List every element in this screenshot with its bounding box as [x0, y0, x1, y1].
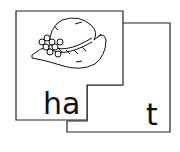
right-card-letters: t: [146, 97, 158, 132]
word-puzzle: t ha: [0, 0, 180, 152]
left-card-letters: ha: [43, 86, 80, 121]
